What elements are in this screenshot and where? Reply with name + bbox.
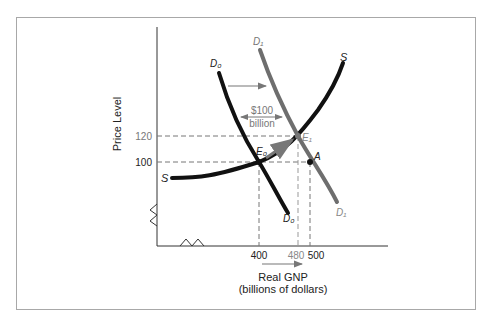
point-a [307, 159, 313, 165]
label-d1-bottom: D₁ [336, 207, 346, 218]
point-e1 [295, 133, 301, 139]
label-a: A [313, 151, 321, 162]
x-tick-480: 480 [288, 250, 305, 261]
x-axis-break-icon [180, 239, 204, 246]
point-e0 [256, 159, 262, 165]
x-tick-400: 400 [251, 250, 268, 261]
x-axis-sublabel: (billions of dollars) [239, 283, 328, 295]
y-tick-100: 100 [135, 157, 152, 168]
x-axis-label: Real GNP [258, 271, 308, 283]
shift-label-amount: $100 [251, 105, 274, 116]
shift-label-unit: billion [249, 118, 275, 129]
x-tick-500: 500 [308, 250, 325, 261]
aggregate-supply-demand-diagram: Price Level 120 100 400 480 500 Real GNP… [0, 0, 495, 328]
label-s-top: S [340, 51, 348, 63]
label-d0-bottom: D₀ [283, 213, 294, 224]
label-d1-top: D₁ [253, 36, 263, 47]
label-e1: E₁ [302, 132, 312, 143]
label-s-left: S [161, 172, 169, 184]
y-axis-break-icon [150, 204, 157, 226]
y-axis-label: Price Level [111, 97, 123, 151]
movement-arrow-icon [266, 140, 292, 158]
label-e0: E₀ [256, 146, 267, 157]
y-tick-120: 120 [135, 131, 152, 142]
label-d0-top: D₀ [210, 58, 221, 69]
